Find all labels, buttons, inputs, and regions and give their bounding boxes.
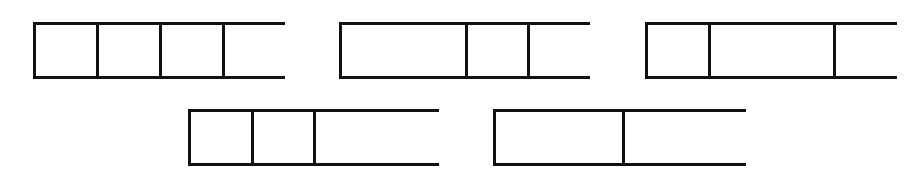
bar-5 [493, 109, 746, 166]
bar-4-segment-2 [254, 112, 316, 163]
bar-3-segment-2 [711, 25, 836, 76]
bar-2-segment-1 [342, 25, 468, 76]
bar-3-segment-1 [648, 25, 711, 76]
bar-1-segment-2 [99, 25, 162, 76]
bar-3 [645, 22, 897, 79]
bar-1 [33, 22, 285, 79]
bar-4 [188, 109, 439, 166]
bar-1-segment-3 [162, 25, 225, 76]
bar-5-segment-2 [625, 112, 749, 163]
bar-1-segment-4 [225, 25, 288, 76]
figure-canvas [0, 0, 921, 184]
bar-2-segment-2 [468, 25, 530, 76]
bar-1-segment-1 [36, 25, 99, 76]
bar-2-segment-3 [530, 25, 593, 76]
bar-2 [339, 22, 590, 79]
bar-4-segment-3 [316, 112, 442, 163]
bar-3-segment-3 [836, 25, 900, 76]
bar-4-segment-1 [191, 112, 254, 163]
bar-5-segment-1 [496, 112, 625, 163]
